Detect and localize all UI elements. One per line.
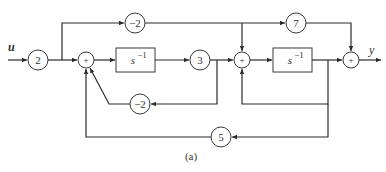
summing-junction-1: + <box>78 52 94 68</box>
gain-value: −2 <box>134 98 146 110</box>
gain-node-feedforward-output: 7 <box>286 13 306 33</box>
svg-text:+: + <box>348 55 353 65</box>
output-label-y: y <box>368 43 375 57</box>
svg-text:+: + <box>239 55 244 65</box>
wire-gain7-to-sum3 <box>306 23 351 51</box>
gain-value: 3 <box>197 54 203 66</box>
summing-junction-3: + <box>343 52 359 68</box>
svg-text:−1: −1 <box>137 50 147 60</box>
svg-text:s: s <box>131 54 135 66</box>
gain-value: 7 <box>293 17 299 29</box>
gain-node-feedback-inner: −2 <box>130 94 150 114</box>
gain-value: −2 <box>129 17 141 29</box>
integrator-block-2: s −1 <box>273 48 312 72</box>
svg-text:+: + <box>83 55 88 65</box>
block-diagram: u 2 −2 7 + s −1 3 −2 <box>0 0 386 172</box>
integrator-block-1: s −1 <box>116 48 155 72</box>
gain-node-after-integrator1: 3 <box>190 50 210 70</box>
gain-value: 2 <box>35 54 41 66</box>
gain-node-feedback-outer: 5 <box>211 127 231 147</box>
wire-branch-to-outer-feedback <box>232 104 328 137</box>
figure-caption: (a) <box>185 150 198 163</box>
svg-text:s: s <box>288 54 292 66</box>
svg-text:−1: −1 <box>294 50 304 60</box>
gain-value: 5 <box>218 131 224 143</box>
input-label-u: u <box>8 40 15 54</box>
summing-junction-2: + <box>234 52 250 68</box>
wire-branch-to-top-gain <box>62 23 124 60</box>
gain-node-input: 2 <box>28 50 48 70</box>
gain-node-feedforward-top: −2 <box>125 13 145 33</box>
wire-inner-feedback-to-sum1 <box>90 68 130 104</box>
